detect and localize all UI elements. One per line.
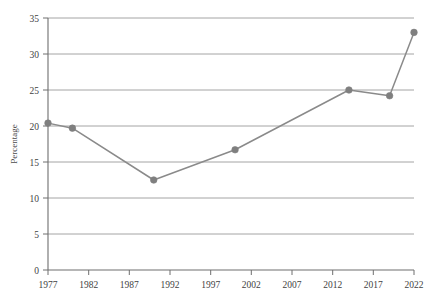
x-tick-label-1982: 1982 [79,280,98,290]
data-point-1990 [150,177,157,184]
plot-area-background [48,18,414,270]
x-tick-label-1987: 1987 [120,280,139,290]
y-axis-title: Percentage [9,124,19,163]
y-tick-label-20: 20 [30,122,40,132]
x-tick-label-2017: 2017 [364,280,383,290]
x-tick-label-2012: 2012 [323,280,342,290]
x-tick-label-2007: 2007 [283,280,302,290]
y-tick-label-30: 30 [30,50,40,60]
data-point-1980 [69,125,76,132]
x-tick-label-1992: 1992 [161,280,180,290]
y-axis-tick-labels: 35 30 25 20 15 10 5 0 [30,14,40,276]
line-chart: 35 30 25 20 15 10 5 0 1977 1982 1987 199… [0,0,432,303]
x-tick-label-1977: 1977 [39,280,58,290]
data-point-1977 [45,120,52,127]
y-tick-label-0: 0 [34,266,39,276]
y-tick-label-35: 35 [30,14,40,24]
y-tick-label-10: 10 [30,194,40,204]
y-tick-label-5: 5 [34,230,39,240]
y-tick-label-25: 25 [30,86,40,96]
y-tick-label-15: 15 [30,158,40,168]
x-tick-label-2002: 2002 [242,280,261,290]
x-tick-label-2022: 2022 [405,280,424,290]
data-point-2022 [411,29,418,36]
x-tick-label-1997: 1997 [201,280,220,290]
y-axis-ticks [43,18,48,270]
chart-figure: 35 30 25 20 15 10 5 0 1977 1982 1987 199… [0,0,432,303]
x-axis-tick-labels: 1977 1982 1987 1992 1997 2002 2007 2012 … [39,280,424,290]
data-point-2019 [386,92,393,99]
x-axis-ticks [48,270,414,275]
data-point-2014 [346,87,353,94]
data-point-2000 [232,146,239,153]
